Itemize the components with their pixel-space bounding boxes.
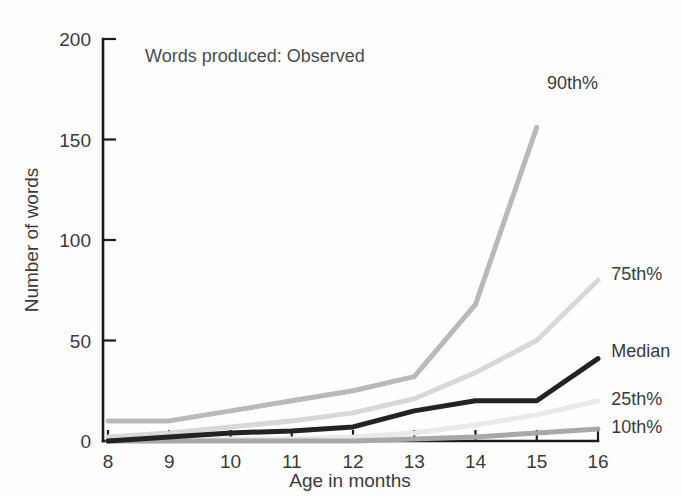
y-tick-label-100: 100	[59, 230, 91, 251]
line-chart-canvas: 050100150200 8910111213141516 90th%75th%…	[0, 0, 682, 497]
series-line-75th	[108, 280, 598, 437]
y-tick-label-0: 0	[80, 431, 91, 452]
x-axis-tick-labels: 8910111213141516	[103, 451, 609, 472]
series-line-median	[108, 359, 598, 441]
series-label-75th: 75th%	[611, 264, 662, 284]
series-label-median: Median	[611, 341, 670, 361]
series-line-90th	[108, 127, 537, 420]
x-tick-label-16: 16	[587, 451, 608, 472]
x-tick-label-11: 11	[282, 451, 302, 472]
x-tick-label-10: 10	[220, 451, 241, 472]
y-axis-title: Number of words	[21, 168, 42, 313]
chart-figure: 050100150200 8910111213141516 90th%75th%…	[0, 0, 682, 497]
y-tick-label-150: 150	[59, 130, 91, 151]
x-tick-label-14: 14	[465, 451, 487, 472]
y-axis-tick-labels: 050100150200	[59, 29, 91, 452]
y-tick-label-200: 200	[59, 29, 91, 50]
x-tick-label-13: 13	[404, 451, 425, 472]
x-axis-title: Age in months	[289, 470, 410, 491]
series-label-25th: 25th%	[611, 389, 662, 409]
series-label-10th: 10th%	[611, 417, 662, 437]
x-tick-label-15: 15	[526, 451, 547, 472]
x-tick-label-9: 9	[164, 451, 175, 472]
series-label-90th: 90th%	[547, 73, 598, 93]
y-axis-ticks	[103, 39, 116, 441]
x-tick-label-12: 12	[342, 451, 363, 472]
x-tick-label-8: 8	[103, 451, 114, 472]
series-lines-group	[108, 127, 598, 441]
y-tick-label-50: 50	[70, 331, 91, 352]
chart-title: Words produced: Observed	[145, 46, 365, 66]
